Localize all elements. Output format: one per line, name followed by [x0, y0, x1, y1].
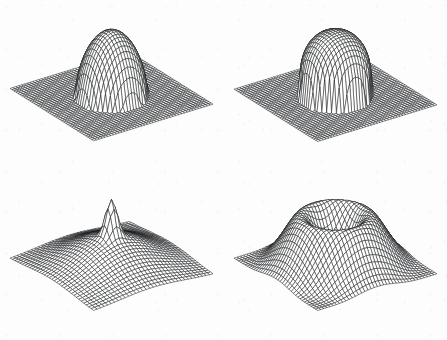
surface-panel-top-right — [224, 0, 447, 170]
surface-mesh-steep-plateau-dome — [224, 0, 447, 170]
surface-plot-figure — [0, 0, 447, 340]
surface-mesh-crater-volcano — [224, 170, 447, 340]
surface-panel-top-left — [0, 0, 223, 170]
surface-panel-bottom-right — [224, 170, 447, 340]
surface-mesh-smooth-dome — [0, 0, 223, 170]
surface-panel-bottom-left — [0, 170, 223, 340]
surface-mesh-broad-mound-with-spike — [0, 170, 223, 340]
